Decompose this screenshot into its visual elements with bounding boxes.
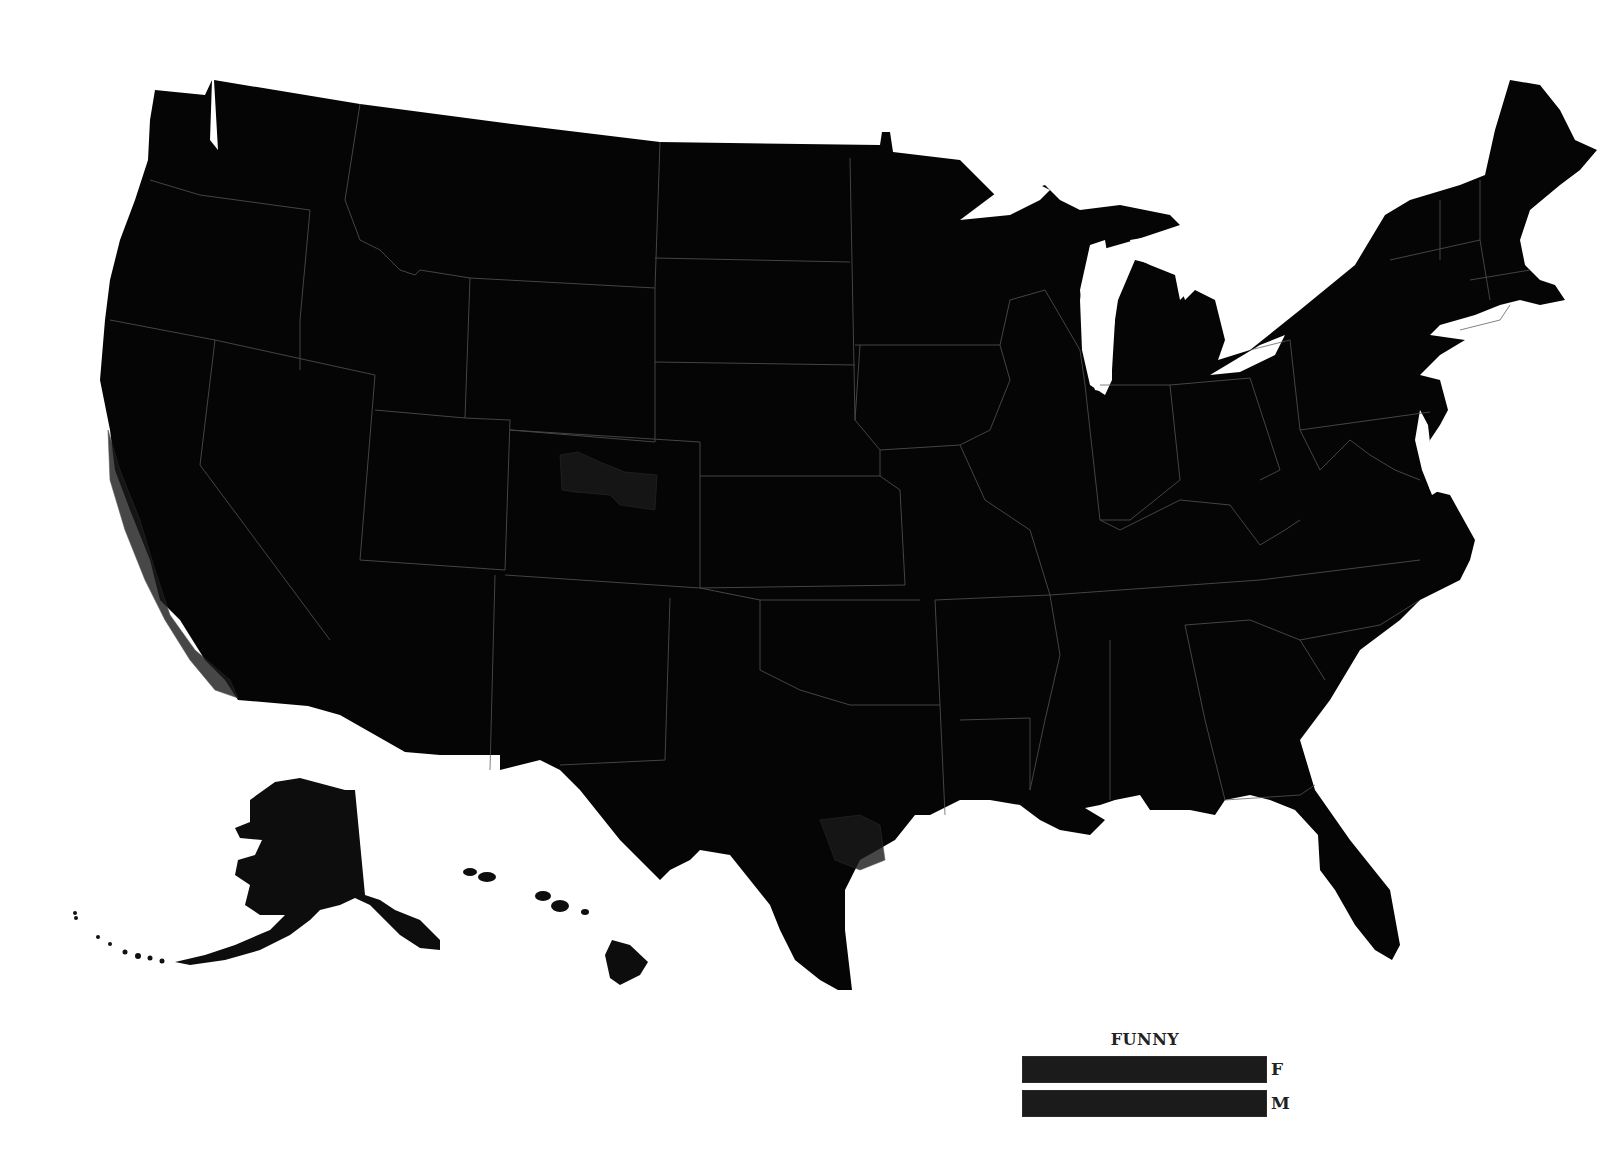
- legend-title: FUNNY: [1022, 1030, 1268, 1049]
- legend-label-m: M: [1271, 1093, 1290, 1113]
- hawaii: [463, 868, 648, 985]
- alaska: [175, 778, 440, 965]
- legend-swatch-f: [1022, 1056, 1267, 1083]
- aleutian-islands: [73, 911, 165, 964]
- us-map: [0, 0, 1618, 1149]
- legend-item-m: M: [1022, 1090, 1302, 1117]
- legend-item-f: F: [1022, 1056, 1302, 1083]
- legend-swatch-m: [1022, 1090, 1267, 1117]
- legend-label-f: F: [1271, 1059, 1283, 1079]
